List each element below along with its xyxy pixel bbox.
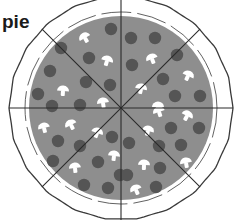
pepperoni bbox=[74, 99, 86, 111]
pepperoni bbox=[78, 179, 90, 191]
pepperoni bbox=[105, 23, 117, 35]
pepperoni bbox=[44, 65, 56, 77]
pepperoni bbox=[32, 88, 44, 100]
pepperoni bbox=[102, 182, 114, 194]
pepperoni bbox=[149, 32, 161, 44]
pie-label: pie bbox=[2, 12, 31, 31]
pepperoni bbox=[123, 137, 135, 149]
pepperoni bbox=[193, 122, 205, 134]
pepperoni bbox=[157, 73, 169, 85]
pepperoni bbox=[46, 100, 58, 112]
pepperoni bbox=[125, 32, 137, 44]
pepperoni bbox=[52, 135, 64, 147]
pepperoni bbox=[104, 79, 116, 91]
pepperoni bbox=[154, 162, 166, 174]
pepperoni bbox=[126, 59, 138, 71]
pepperoni bbox=[83, 52, 95, 64]
pepperoni bbox=[165, 122, 177, 134]
pepperoni bbox=[171, 49, 183, 61]
pepperoni bbox=[47, 155, 59, 167]
pepperoni bbox=[92, 156, 104, 168]
pepperoni bbox=[169, 90, 181, 102]
pepperoni bbox=[106, 131, 118, 143]
pepperoni bbox=[74, 140, 86, 152]
pepperoni bbox=[150, 181, 162, 193]
pepperoni bbox=[121, 169, 133, 181]
pepperoni bbox=[175, 139, 187, 151]
pizza-illustration bbox=[0, 0, 235, 223]
pepperoni bbox=[194, 90, 206, 102]
